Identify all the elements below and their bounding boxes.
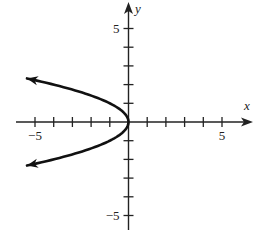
axes: [16, 2, 253, 230]
y-tick-label: 5: [113, 21, 120, 36]
x-axis-label: x: [243, 98, 250, 113]
parabola-graph: −555−5 x y: [0, 0, 253, 252]
y-tick-label: −5: [106, 208, 120, 223]
y-axis-label: y: [133, 1, 141, 16]
x-tick-label: 5: [219, 128, 226, 143]
x-tick-label: −5: [28, 128, 42, 143]
